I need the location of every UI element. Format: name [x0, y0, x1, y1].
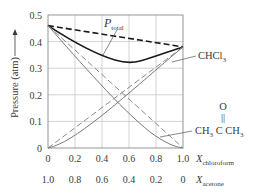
y-tick-labels: 0.5 0.4 0.3 0.2 0.1 0 — [30, 10, 43, 154]
chcl3-leader — [172, 56, 196, 62]
svg-text:0: 0 — [37, 143, 42, 154]
grid-lines — [48, 15, 183, 148]
svg-text:0.6: 0.6 — [96, 174, 109, 185]
x-axis-label-chloroform: Xchloroform — [195, 153, 234, 167]
svg-text:1.0: 1.0 — [177, 153, 190, 164]
svg-text:0.3: 0.3 — [30, 63, 43, 74]
svg-text:0.2: 0.2 — [150, 174, 163, 185]
vapor-pressure-chart: 0.5 0.4 0.3 0.2 0.1 0 Pressure (atm) 0 0… — [0, 0, 255, 194]
svg-text:0.2: 0.2 — [69, 153, 82, 164]
x-tick-labels-acetone: 1.0 0.8 0.6 0.4 0.2 0 — [42, 174, 186, 185]
ptotal-leader — [103, 30, 117, 55]
svg-text:CH3 C CH3: CH3 C CH3 — [195, 125, 244, 139]
x-axis-label-acetone: Xacetone — [195, 174, 224, 188]
acetone-label: O || CH3 C CH3 — [195, 101, 244, 139]
x-tick-labels-chloroform: 0 0.2 0.4 0.6 0.8 1.0 — [46, 153, 190, 164]
chloroform-ideal-line — [48, 47, 183, 148]
svg-text:0.1: 0.1 — [30, 116, 43, 127]
svg-text:0.5: 0.5 — [30, 10, 43, 21]
plot-frame — [48, 15, 183, 148]
svg-text:||: || — [221, 112, 225, 123]
svg-text:0.8: 0.8 — [150, 153, 163, 164]
svg-text:O: O — [219, 101, 227, 112]
svg-text:0.4: 0.4 — [30, 37, 43, 48]
svg-text:0.8: 0.8 — [69, 174, 82, 185]
svg-text:0: 0 — [181, 174, 186, 185]
acetone-ideal-line — [48, 26, 183, 148]
y-axis-arrowhead — [13, 29, 18, 35]
svg-text:1.0: 1.0 — [42, 174, 55, 185]
chcl3-label: CHCl3 — [198, 50, 227, 64]
y-axis-label: Pressure (atm) — [9, 57, 21, 118]
svg-text:0.4: 0.4 — [96, 153, 109, 164]
svg-text:0: 0 — [46, 153, 51, 164]
svg-text:0.6: 0.6 — [123, 153, 136, 164]
svg-text:0.4: 0.4 — [123, 174, 136, 185]
ptotal-label: Ptotal — [103, 16, 124, 32]
svg-text:0.2: 0.2 — [30, 90, 43, 101]
